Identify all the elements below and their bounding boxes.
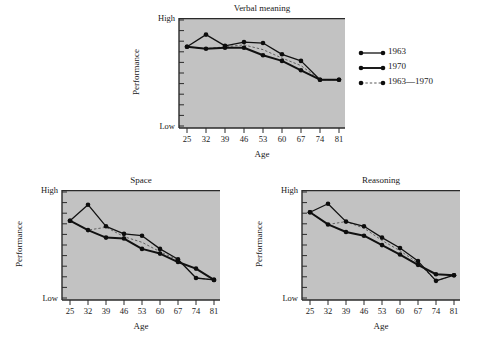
legend-item-0: 1963 [358,48,478,60]
y-axis-high-label-reasoning: High [258,185,298,195]
data-point [362,224,367,229]
legend-marker [381,66,386,71]
x-axis-title-verbal: Age [149,149,375,159]
data-point [158,251,163,256]
data-point [434,279,439,284]
data-point [242,45,247,50]
x-axis-title-reasoning: Age [272,321,485,331]
legend-label-0: 1963 [388,46,406,56]
legend-label-2: 1963—1970 [388,76,433,86]
data-point [104,235,109,240]
data-point [337,77,342,82]
x-tick-label: 81 [328,134,350,144]
data-point [185,45,190,50]
data-point [380,235,385,240]
y-axis-title-reasoning: Performance [254,194,264,294]
data-point [68,218,73,223]
data-point [280,52,285,57]
data-point [344,230,349,235]
plot-area-verbal [179,18,345,128]
y-axis-high-label-space: High [18,185,58,195]
data-point [122,236,127,241]
y-axis-high-label-verbal: High [135,13,175,23]
chart-title-space: Space [2,175,280,185]
y-axis-low-label-space: Low [18,293,58,303]
data-point [380,243,385,248]
data-point [416,263,421,268]
data-point [86,228,91,233]
legend-item-1: 1970 [358,63,478,75]
data-point [280,59,285,64]
data-point [242,40,247,45]
data-point [86,202,91,207]
legend-label-1: 1970 [388,61,406,71]
data-point [398,252,403,257]
data-point [140,233,145,238]
y-axis-title-space: Performance [14,194,24,294]
data-point [104,224,109,229]
data-point [362,233,367,238]
data-point [223,45,228,50]
plot-area-reasoning [302,190,460,300]
y-axis-title-verbal: Performance [131,22,141,122]
x-axis-title-space: Age [32,321,250,331]
data-point [204,32,209,37]
legend-swatch-0 [358,48,386,58]
data-point [176,260,181,265]
chart-title-verbal: Verbal meaning [119,3,405,13]
data-point [318,77,323,82]
legend-marker [359,51,364,56]
data-point [326,201,331,206]
chart-panel-reasoning [302,190,460,300]
legend-swatch-2 [358,78,386,88]
chart-legend: 196319701963—1970 [358,48,478,94]
plot-area-space [62,190,220,300]
data-point [434,272,439,277]
data-point [140,247,145,252]
data-point [212,278,217,283]
legend-marker [359,66,364,71]
data-point [261,41,266,46]
legend-swatch-1 [358,63,386,73]
data-point [398,246,403,251]
data-point [122,232,127,237]
x-tick-label: 81 [203,306,225,316]
data-point [299,68,304,73]
data-point [344,219,349,224]
data-point [194,266,199,271]
data-point [194,276,199,281]
data-point [261,53,266,58]
y-axis-low-label-reasoning: Low [258,293,298,303]
legend-marker [381,51,386,56]
chart-panel-space [62,190,220,300]
chart-title-reasoning: Reasoning [242,175,485,185]
legend-marker [381,81,386,86]
data-point [308,210,313,215]
chart-panel-verbal [179,18,345,128]
data-point [326,222,331,227]
legend-item-2: 1963—1970 [358,78,478,90]
data-point [299,59,304,64]
data-point [158,247,163,252]
x-tick-label: 81 [443,306,465,316]
data-point [452,273,457,278]
y-axis-low-label-verbal: Low [135,121,175,131]
data-point [204,46,209,51]
legend-marker [359,81,364,86]
